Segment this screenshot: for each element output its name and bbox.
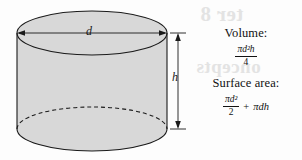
volume-denominator: 4 bbox=[242, 57, 251, 68]
surface-area-denominator: 2 bbox=[227, 107, 236, 118]
surface-area-formula-group: Surface area: πd² 2 + πdh bbox=[190, 76, 302, 117]
surface-area-fraction: πd² 2 bbox=[223, 95, 239, 117]
formula-panel: Volume: πd²h 4 Surface area: πd² 2 + πdh bbox=[190, 26, 302, 126]
cylinder-figure: ter 8 oncepts d h bbox=[0, 0, 302, 160]
volume-fraction: πd²h 4 bbox=[235, 45, 256, 67]
height-label: h bbox=[172, 70, 178, 85]
volume-expression: πd²h 4 bbox=[190, 45, 302, 67]
surface-area-numerator: πd² bbox=[223, 95, 239, 106]
surface-area-second-term: πdh bbox=[253, 101, 269, 112]
surface-area-operator: + bbox=[242, 101, 250, 112]
volume-formula-group: Volume: πd²h 4 bbox=[190, 26, 302, 67]
volume-heading: Volume: bbox=[190, 26, 302, 41]
height-arrowhead-bottom bbox=[175, 121, 181, 129]
surface-area-expression: πd² 2 + πdh bbox=[190, 95, 302, 117]
surface-area-heading: Surface area: bbox=[190, 76, 302, 91]
height-arrowhead-top bbox=[175, 33, 181, 41]
diameter-label: d bbox=[86, 24, 92, 39]
volume-numerator: πd²h bbox=[235, 45, 256, 56]
